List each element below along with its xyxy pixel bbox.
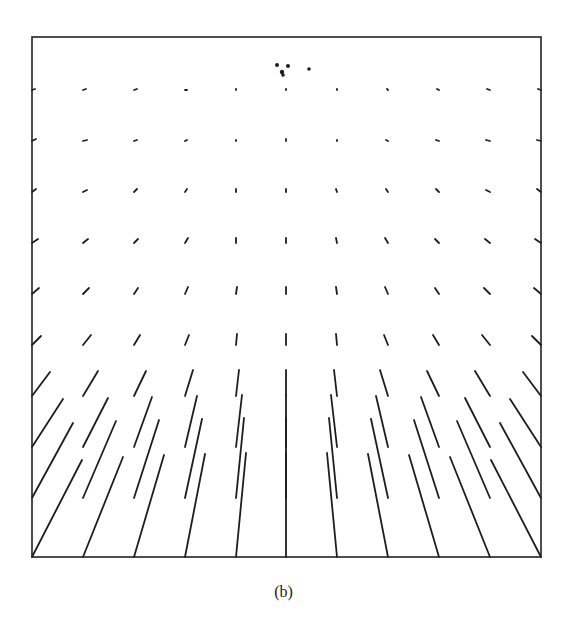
flow-vector (236, 287, 237, 294)
flow-vector (409, 455, 439, 557)
flow-vector (486, 190, 490, 192)
flow-vector (185, 238, 188, 243)
flow-vector (427, 371, 439, 396)
flow-vector (83, 190, 87, 192)
flow-vector (523, 372, 541, 396)
flow-vector (435, 239, 439, 243)
flow-vector (387, 89, 388, 90)
flow-vector (32, 399, 63, 447)
flow-vector (487, 89, 490, 90)
flow-vector (535, 239, 541, 243)
flow-vector (475, 371, 490, 396)
flow-vector (482, 335, 490, 345)
flow-vector (534, 288, 541, 294)
flow-vector (236, 334, 237, 345)
flow-vector (83, 89, 86, 90)
flow-vector (32, 336, 41, 345)
flow-vector (491, 460, 541, 557)
flow-vector (32, 423, 73, 498)
flow-vector (336, 238, 337, 243)
focus-dot (281, 73, 285, 77)
figure-caption: (b) (0, 583, 567, 601)
flow-vector (236, 453, 246, 557)
flow-vector (185, 396, 197, 447)
flow-vector (134, 371, 146, 396)
flow-vector (465, 398, 490, 447)
flow-field-diagram (0, 0, 567, 637)
flow-vector (32, 239, 38, 243)
flow-vector (83, 288, 89, 294)
flow-vector (185, 370, 193, 396)
flow-vector (185, 454, 205, 557)
flow-vector (436, 189, 439, 192)
flow-vector (134, 288, 138, 294)
flow-vector (83, 457, 123, 557)
flow-vector (336, 189, 337, 192)
focus-dot (275, 63, 279, 67)
flow-vector (83, 398, 108, 447)
flow-vector (134, 397, 152, 447)
flow-vector (185, 335, 189, 345)
flow-vector (385, 238, 388, 243)
flow-vector (83, 140, 87, 141)
flow-vector (368, 454, 388, 557)
flow-vector (433, 335, 439, 345)
flow-vector (436, 140, 439, 141)
flow-vector (510, 399, 541, 447)
focus-dot (286, 64, 290, 68)
flow-vector (336, 334, 337, 345)
flow-vector (384, 335, 388, 345)
flow-vector (484, 288, 490, 294)
flow-vector (500, 423, 541, 498)
flow-vector (327, 453, 337, 557)
flow-vector (336, 287, 337, 294)
flow-vector (532, 336, 541, 345)
flow-vector (134, 189, 137, 192)
flow-vector (380, 370, 388, 396)
flow-vector (236, 370, 239, 396)
flow-vector (437, 89, 439, 90)
flow-vector (421, 397, 439, 447)
flow-vector (32, 460, 82, 557)
flow-vector (83, 335, 91, 345)
flow-vector (450, 457, 490, 557)
flow-vector (185, 189, 187, 192)
flow-vector (134, 239, 138, 243)
focus-of-expansion-dots (275, 63, 311, 77)
flow-vector (486, 140, 490, 141)
flow-vector (83, 371, 98, 396)
focus-dot (307, 67, 311, 71)
flow-vector (32, 288, 39, 294)
flow-vector (134, 89, 137, 90)
flow-vector (485, 239, 490, 243)
flow-vector (386, 140, 388, 141)
flow-vector (32, 372, 50, 396)
flow-vector (134, 140, 137, 141)
flow-vector (334, 370, 337, 396)
flow-vector (185, 287, 188, 294)
flow-vector (134, 455, 164, 557)
flow-vector (376, 396, 388, 447)
flow-vector (435, 288, 439, 294)
flow-vector (83, 239, 88, 243)
flow-vectors (32, 89, 541, 557)
flow-vector (385, 287, 388, 294)
flow-vector (134, 335, 140, 345)
flow-vector (386, 189, 388, 192)
flow-vector (185, 140, 187, 141)
